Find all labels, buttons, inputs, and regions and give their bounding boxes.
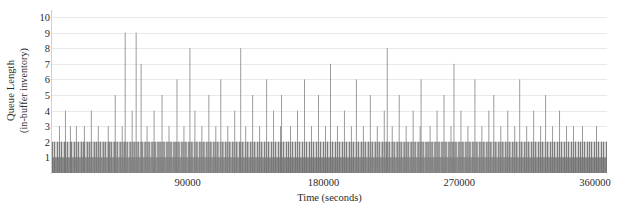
y-tick-label-5: 5 [30,90,50,101]
x-tick-label-180000: 180000 [308,176,340,189]
x-axis-title: Time (seconds) [52,191,607,204]
x-axis-tick-labels: 90000180000270000360000 [0,176,626,192]
y-axis-title-line1: Queue Length [5,60,16,121]
x-tick-label-90000: 90000 [175,176,201,189]
plot-area [52,10,607,173]
y-tick-label-8: 8 [30,43,50,54]
y-tick-label-7: 7 [30,58,50,69]
y-tick-label-3: 3 [30,121,50,132]
y-axis-title-line2: (in-buffer inventory) [17,48,28,133]
y-tick-label-6: 6 [30,74,50,85]
y-tick-label-2: 2 [30,136,50,147]
y-tick-label-4: 4 [30,105,50,116]
y-tick-label-9: 9 [30,27,50,38]
chart-figure: Queue Length (in-buffer inventory) 12345… [0,0,626,212]
bar-series [52,10,607,173]
x-tick-label-360000: 360000 [579,176,611,189]
y-tick-label-1: 1 [30,152,50,163]
x-tick-label-270000: 270000 [443,176,475,189]
y-tick-label-10: 10 [30,12,50,23]
y-axis-title: Queue Length (in-buffer inventory) [0,0,34,180]
